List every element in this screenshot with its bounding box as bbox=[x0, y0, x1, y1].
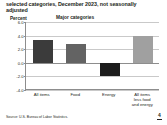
title-line-2: adjusted bbox=[6, 7, 162, 13]
source-note: Source: U.S. Bureau of Labor Statistics. bbox=[6, 115, 68, 119]
x-category-label: Energy bbox=[92, 92, 126, 97]
bar-energy[interactable] bbox=[100, 63, 120, 77]
gridline--2.0 bbox=[26, 76, 159, 77]
y-tick-label: -2.0 bbox=[16, 74, 23, 79]
page-title: selected categories, December 2023, not … bbox=[6, 1, 162, 14]
y-tick-mark bbox=[24, 22, 26, 23]
y-tick-mark bbox=[24, 76, 26, 77]
page-number: 4 bbox=[157, 112, 162, 120]
x-category-label: All itemsless foodand energy bbox=[126, 92, 160, 108]
y-tick-label: 4.0 bbox=[18, 33, 24, 38]
chart-subtitle: Major categories bbox=[56, 15, 94, 20]
x-category-label-line: Food bbox=[59, 92, 93, 97]
x-category-label: Food bbox=[59, 92, 93, 97]
bar-all-items[interactable] bbox=[33, 40, 53, 63]
bar-food[interactable] bbox=[66, 44, 86, 62]
gridline-6.0 bbox=[26, 22, 159, 23]
y-tick-label: 2.0 bbox=[18, 47, 24, 52]
y-tick-label: 0.0 bbox=[18, 60, 24, 65]
x-category-label-line: All items bbox=[25, 92, 59, 97]
x-category-label: All items bbox=[25, 92, 59, 97]
y-tick-mark bbox=[24, 49, 26, 50]
chart-plot-area: 6.04.02.00.0-2.0-4.0 bbox=[25, 22, 159, 90]
x-category-label-line: and energy bbox=[126, 102, 160, 107]
gridline-0.0 bbox=[26, 63, 159, 64]
slide-canvas: selected categories, December 2023, not … bbox=[0, 0, 167, 125]
y-tick-label: -4.0 bbox=[16, 88, 23, 93]
y-tick-mark bbox=[24, 36, 26, 37]
bar-all-items-less-food-and-energy[interactable] bbox=[133, 36, 153, 63]
page-number-rule bbox=[157, 119, 162, 120]
page-number-value: 4 bbox=[158, 112, 161, 118]
x-category-label-line: Energy bbox=[92, 92, 126, 97]
y-tick-mark bbox=[24, 63, 26, 64]
y-tick-label: 6.0 bbox=[18, 20, 24, 25]
